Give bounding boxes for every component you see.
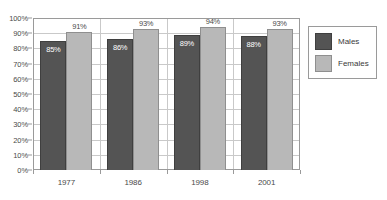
x-axis-tick-label: 1986 (100, 178, 167, 187)
bar-value-label: 85% (46, 45, 60, 54)
y-axis-tick-label: 20% (13, 135, 28, 144)
legend-swatch (315, 55, 332, 72)
bar-group: 85%91% (33, 18, 100, 170)
y-axis-tick-label: 60% (13, 74, 28, 83)
bar-males[interactable]: 85% (40, 41, 66, 170)
x-axis: 1977198619982001 (33, 170, 300, 192)
x-axis-tick: 1998 (167, 170, 234, 192)
x-axis-tick: 1986 (100, 170, 167, 192)
y-axis-tick-label: 0% (17, 166, 28, 175)
legend-item[interactable]: Males (315, 33, 369, 50)
bar-group: 88%93% (233, 18, 300, 170)
y-axis-tick-label: 40% (13, 105, 28, 114)
y-axis-tick-label: 90% (13, 29, 28, 38)
bar-groups: 85%91%86%93%89%94%88%93% (33, 18, 300, 170)
y-axis-tick-label: 70% (13, 59, 28, 68)
x-axis-tick-label: 1998 (167, 178, 234, 187)
legend-label: Males (338, 37, 359, 46)
x-axis-tick-mark (33, 170, 34, 174)
bar-value-label: 93% (139, 19, 153, 28)
x-axis-tick-mark (167, 170, 168, 174)
bar-females[interactable]: 93% (267, 29, 293, 170)
y-axis-tick-mark (28, 48, 32, 49)
bar-group: 89%94% (167, 18, 234, 170)
y-axis-tick-mark (28, 170, 32, 171)
bar-females[interactable]: 91% (66, 32, 92, 170)
x-axis-tick-label: 2001 (233, 178, 300, 187)
y-axis-tick-mark (28, 124, 32, 125)
legend-label: Females (338, 59, 369, 68)
x-axis-tick: 2001 (233, 170, 300, 192)
legend-item[interactable]: Females (315, 55, 369, 72)
y-axis-tick-label: 100% (9, 14, 28, 23)
x-axis-tick-mark (300, 170, 301, 174)
x-axis-tick-mark (100, 170, 101, 174)
y-axis-tick-label: 80% (13, 44, 28, 53)
y-axis-tick-mark (28, 109, 32, 110)
y-axis: 100%90%80%70%60%50%40%30%20%10%0% (0, 18, 31, 170)
legend-swatch (315, 33, 332, 50)
y-axis-tick-mark (28, 139, 32, 140)
y-axis-tick-label: 10% (13, 150, 28, 159)
y-axis-tick-label: 30% (13, 120, 28, 129)
bar-males[interactable]: 86% (107, 39, 133, 170)
y-axis-tick-mark (28, 63, 32, 64)
grouped-bar-chart: 100%90%80%70%60%50%40%30%20%10%0% 85%91%… (0, 0, 387, 200)
bar-males[interactable]: 88% (241, 36, 267, 170)
y-axis-tick-label: 50% (13, 90, 28, 99)
bar-females[interactable]: 93% (133, 29, 159, 170)
y-axis-tick-mark (28, 78, 32, 79)
y-axis-tick-mark (28, 33, 32, 34)
bar-females[interactable]: 94% (200, 27, 226, 170)
x-axis-tick-label: 1977 (33, 178, 100, 187)
bar-value-label: 91% (72, 22, 86, 31)
bar-value-label: 93% (272, 19, 286, 28)
x-axis-tick: 1977 (33, 170, 100, 192)
bar-group: 86%93% (100, 18, 167, 170)
bar-males[interactable]: 89% (174, 35, 200, 170)
bar-value-label: 86% (113, 43, 127, 52)
bar-value-label: 94% (206, 17, 220, 26)
bar-value-label: 88% (246, 40, 260, 49)
x-axis-tick-mark (233, 170, 234, 174)
y-axis-tick-mark (28, 154, 32, 155)
chart-legend: MalesFemales (308, 26, 377, 79)
y-axis-tick-mark (28, 94, 32, 95)
bar-value-label: 89% (180, 39, 194, 48)
y-axis-tick-mark (28, 18, 32, 19)
